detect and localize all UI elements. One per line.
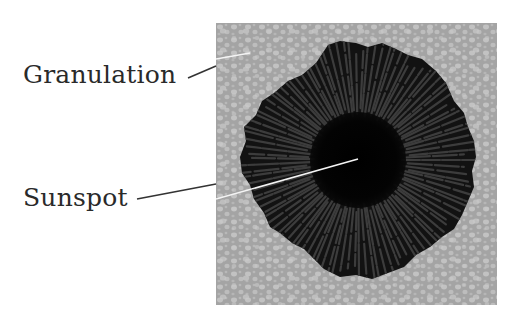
umbra (310, 112, 406, 208)
granulation-label: Granulation (23, 62, 176, 87)
sunspot-leader-line (137, 184, 216, 199)
sunspot-label: Sunspot (23, 185, 128, 210)
granulation-leader-line (188, 66, 216, 78)
sunspot-image (216, 23, 497, 305)
solar-surface-photo (216, 23, 497, 305)
